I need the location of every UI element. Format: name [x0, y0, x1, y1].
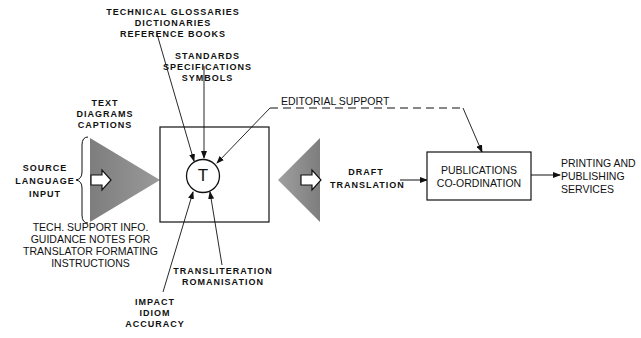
printing-label: PRINTING AND PUBLISHING SERVICES [561, 157, 636, 196]
draft-translation-label: DRAFT TRANSLATION [330, 166, 402, 192]
text-items-label: TEXT DIAGRAMS CAPTIONS [75, 98, 135, 131]
publications-label: PUBLICATIONS CO-ORDINATION [427, 164, 531, 190]
diagram-canvas [0, 0, 641, 338]
standards-label: STANDARDS SPECIFICATIONS SYMBOLS [160, 51, 255, 84]
translator-symbol: T [193, 166, 213, 186]
source-language-label: SOURCE LANGUAGE INPUT [14, 162, 76, 201]
impact-label: IMPACT IDIOM ACCURACY [125, 297, 185, 330]
tech-support-label: TECH. SUPPORT INFO. GUIDANCE NOTES FOR T… [18, 221, 163, 269]
transliteration-label: TRANSLITERATION ROMANISATION [168, 266, 278, 288]
reference-label: TECHNICAL GLOSSARIES DICTIONARIES REFERE… [88, 7, 258, 40]
editorial-to-publications-arrow [463, 108, 482, 152]
editorial-label: EDITORIAL SUPPORT [281, 95, 389, 107]
source-brace [76, 137, 88, 223]
